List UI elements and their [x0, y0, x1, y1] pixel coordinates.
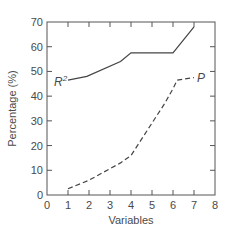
x-tick-label: 8 [212, 199, 218, 211]
y-tick-label: 50 [31, 65, 43, 77]
x-tick-label: 0 [44, 199, 50, 211]
series-label-superscript: 2 [62, 74, 68, 83]
y-tick-label: 0 [37, 189, 43, 201]
y-tick-label: 30 [31, 115, 43, 127]
x-tick-label: 6 [170, 199, 176, 211]
x-tick-label: 1 [65, 199, 71, 211]
y-axis-label: Percentage (%) [6, 70, 18, 146]
x-axis-label: Variables [108, 214, 154, 226]
series-label-p: P [197, 71, 205, 85]
x-tick-label: 3 [107, 199, 113, 211]
y-tick-label: 70 [31, 16, 43, 28]
y-tick-label: 10 [31, 164, 43, 176]
series-label-main: R [54, 75, 63, 89]
x-tick-label: 5 [149, 199, 155, 211]
y-tick-label: 20 [31, 140, 43, 152]
line-chart: 012345678010203040506070 VariablesPercen… [0, 0, 232, 235]
x-tick-label: 7 [191, 199, 197, 211]
plot-frame [47, 22, 215, 195]
x-tick-label: 2 [86, 199, 92, 211]
axes: 012345678010203040506070 [31, 16, 218, 211]
x-tick-label: 4 [128, 199, 134, 211]
series-label-r-squared: R2 [54, 74, 68, 89]
y-tick-label: 60 [31, 41, 43, 53]
series-line-r-squared [68, 27, 194, 80]
series-line-p [68, 78, 194, 189]
y-tick-label: 40 [31, 90, 43, 102]
series-lines [68, 27, 194, 189]
